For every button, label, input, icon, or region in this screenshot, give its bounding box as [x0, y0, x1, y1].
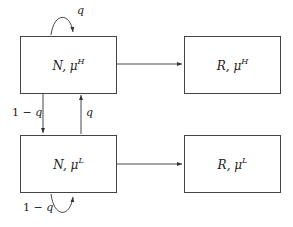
node-label: R, μL: [218, 157, 248, 172]
self-loop-arrow-bottom: [51, 194, 73, 212]
node-r-mu-l: R, μL: [184, 135, 281, 193]
edge-label-top-loop: q: [77, 4, 84, 17]
node-r-mu-h: R, μH: [184, 36, 281, 94]
node-n-mu-l: N, μL: [20, 135, 117, 193]
node-label: R, μH: [217, 58, 248, 73]
node-label: N, μL: [53, 157, 83, 172]
node-label: N, μH: [52, 58, 84, 73]
node-n-mu-h: N, μH: [20, 36, 117, 94]
edge-label-bottom-loop: 1 − q: [23, 201, 53, 214]
edge-label-up: q: [86, 106, 93, 119]
edge-label-down: 1 − q: [12, 106, 42, 119]
self-loop-arrow-top: [51, 17, 73, 35]
